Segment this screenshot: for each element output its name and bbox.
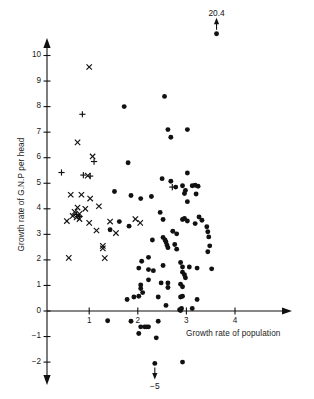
data-point-dot [168, 179, 173, 184]
data-point-cross [64, 218, 69, 223]
data-point-dot [214, 31, 219, 36]
data-point-cross [75, 140, 80, 145]
off-scale-value-label: −5 [135, 381, 175, 391]
data-point-dot [146, 324, 151, 329]
data-point-cross [94, 228, 99, 233]
data-point-dot [185, 219, 190, 224]
x-tick-label: 1 [79, 316, 99, 325]
data-point-dot [165, 127, 170, 132]
data-point-dot [105, 318, 110, 323]
data-point-dot [122, 104, 127, 109]
data-point-dot [152, 361, 157, 366]
data-point-plus [91, 158, 97, 164]
data-point-dot [180, 265, 185, 270]
data-point-plus [58, 169, 64, 175]
data-point-dot [159, 280, 164, 285]
data-point-dot [139, 259, 144, 264]
data-point-cross [87, 220, 92, 225]
y-tick-label: 8 [19, 101, 41, 110]
data-point-dot [194, 192, 199, 197]
y-tick-label: 2 [19, 254, 41, 263]
data-point-dot [185, 127, 190, 132]
data-point-dot [162, 94, 167, 99]
annotation-arrows-layer [152, 18, 219, 380]
data-point-dot [206, 234, 211, 239]
y-tick-label: 0 [19, 306, 41, 315]
data-point-dot [174, 231, 179, 236]
data-point-cross [138, 220, 143, 225]
data-point-cross [87, 64, 92, 69]
y-tick-label: 7 [19, 127, 41, 136]
y-tick-label: 10 [19, 50, 41, 59]
x-tick-label: 4 [225, 316, 245, 325]
data-point-dot [174, 247, 179, 252]
data-point-dot [156, 319, 161, 324]
data-point-dot [183, 188, 188, 193]
x-tick-label: 3 [176, 316, 196, 325]
data-point-dot [136, 331, 141, 336]
data-point-dot [149, 194, 154, 199]
data-point-dot [161, 263, 166, 268]
data-point-dot [146, 267, 151, 272]
data-point-dot [205, 229, 210, 234]
data-point-dot [108, 227, 113, 232]
data-point-dot [207, 243, 212, 248]
data-point-cross [83, 206, 88, 211]
data-point-dot [204, 224, 209, 229]
x-axis-title: Growth rate of population [186, 329, 280, 338]
data-point-dot [165, 245, 170, 250]
data-point-dot [136, 294, 141, 299]
y-tick-label: −2 [19, 357, 41, 366]
data-point-dot [131, 294, 136, 299]
data-point-dot [168, 135, 173, 140]
data-point-cross [87, 196, 92, 201]
data-point-dot [195, 297, 200, 302]
scatter-plot-figure: Growth rate of population Growth rate of… [0, 0, 314, 399]
data-point-dot [160, 176, 165, 181]
data-point-dot [156, 294, 161, 299]
data-point-dot [165, 285, 170, 290]
y-tick-label: 4 [19, 203, 41, 212]
data-point-dot [185, 199, 190, 204]
y-tick-label: −1 [19, 331, 41, 340]
data-point-dot [195, 266, 200, 271]
data-point-dot [178, 260, 183, 265]
data-point-dot [158, 210, 163, 215]
y-tick-label: 6 [19, 152, 41, 161]
y-tick-label: 5 [19, 178, 41, 187]
data-point-dot [146, 255, 151, 260]
data-point-dot [190, 306, 195, 311]
x-tick-label: 2 [128, 316, 148, 325]
data-point-cross [102, 255, 107, 260]
data-point-dot [161, 217, 166, 222]
data-point-dot [129, 193, 134, 198]
data-point-dot [183, 275, 188, 280]
data-point-dot [146, 277, 151, 282]
data-point-dot [172, 242, 177, 247]
data-point-dot [180, 284, 185, 289]
data-point-dot [205, 249, 210, 254]
data-point-cross [90, 154, 95, 159]
data-point-dot [164, 303, 169, 308]
data-point-dot [154, 335, 159, 340]
data-point-cross [133, 216, 138, 221]
data-point-dot [180, 360, 185, 365]
data-point-plus [79, 111, 85, 117]
data-point-dot [185, 171, 190, 176]
data-point-dot [209, 266, 214, 271]
data-point-dot [136, 266, 141, 271]
data-point-dot [117, 219, 122, 224]
data-point-dot [151, 268, 156, 273]
off-scale-value-label: 20.4 [197, 8, 237, 18]
data-point-dot [138, 196, 143, 201]
y-tick-label: 3 [19, 229, 41, 238]
data-point-dot [173, 185, 178, 190]
data-point-dot [187, 265, 192, 270]
data-point-dot [193, 221, 198, 226]
data-point-dot [126, 160, 131, 165]
data-point-dot [127, 224, 132, 229]
data-point-dot [200, 218, 205, 223]
data-point-cross [79, 192, 84, 197]
data-point-dot [196, 184, 201, 189]
data-point-dot [125, 297, 130, 302]
